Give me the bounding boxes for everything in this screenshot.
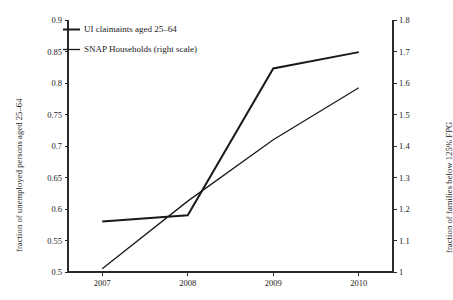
axis-ticks <box>65 20 397 276</box>
axes-lines <box>68 20 393 272</box>
data-series-layer <box>102 52 359 269</box>
series-line-ui-claimants <box>102 52 359 221</box>
legend-label-ui-claimants: UI claimaints aged 25–64 <box>84 24 177 34</box>
legend-label-snap-households: SNAP Households (right scale) <box>84 44 197 54</box>
series-line-snap-households <box>102 88 359 269</box>
plot-area <box>0 0 453 300</box>
chart-figure: fraction of unemployed persons aged 25–6… <box>0 0 453 300</box>
legend-swatch-layer <box>63 30 80 50</box>
